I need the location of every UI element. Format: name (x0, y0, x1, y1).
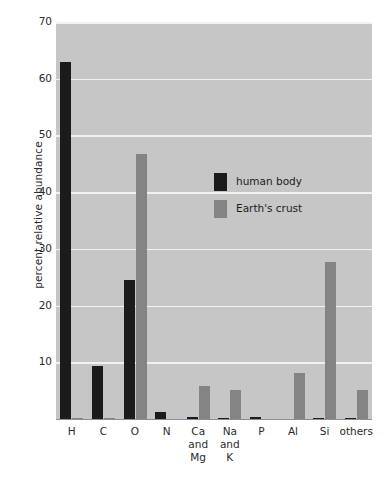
bar-group (60, 22, 83, 419)
x-tick-label-line: others (334, 425, 378, 438)
bar-group (124, 22, 147, 419)
bar (357, 390, 368, 419)
bar (325, 262, 336, 419)
legend-swatch (214, 173, 227, 191)
bar-chart: percent relative abundance 7060504030201… (0, 0, 392, 487)
bar (345, 418, 356, 420)
y-tick-label: 20 (26, 299, 52, 311)
bar (124, 280, 135, 419)
bar (294, 373, 305, 420)
legend-label: human body (236, 175, 302, 187)
bar (104, 418, 115, 420)
legend-label: Earth's crust (236, 202, 302, 214)
bar (187, 417, 198, 419)
x-tick-label-line: and (208, 438, 252, 451)
bar-group (92, 22, 115, 419)
bar-group (155, 22, 178, 419)
bar-group (187, 22, 210, 419)
bar-group (250, 22, 273, 419)
plot-area (56, 22, 372, 419)
x-tick-label: others (334, 425, 378, 438)
bar (250, 417, 261, 419)
bar-group (345, 22, 368, 419)
y-tick-label: 60 (26, 72, 52, 84)
bar (218, 418, 229, 420)
x-axis-ticks: HCONCaandMgNaandKPAlSiothers (56, 425, 372, 487)
y-axis-ticks: 70605040302010 (26, 0, 52, 487)
bar-group (218, 22, 241, 419)
bar (72, 418, 83, 420)
bar (92, 366, 103, 419)
x-tick-label-line: K (208, 451, 252, 464)
bar-group (282, 22, 305, 419)
legend-swatch (214, 200, 227, 218)
y-tick-label: 30 (26, 242, 52, 254)
bar (136, 154, 147, 419)
bar (199, 386, 210, 419)
bar (230, 390, 241, 419)
y-tick-label: 70 (26, 15, 52, 27)
bar-group (313, 22, 336, 419)
y-tick-label: 50 (26, 128, 52, 140)
bar (60, 62, 71, 419)
bar (313, 418, 324, 420)
y-tick-label: 40 (26, 185, 52, 197)
y-tick-label: 10 (26, 355, 52, 367)
bar (155, 412, 166, 419)
